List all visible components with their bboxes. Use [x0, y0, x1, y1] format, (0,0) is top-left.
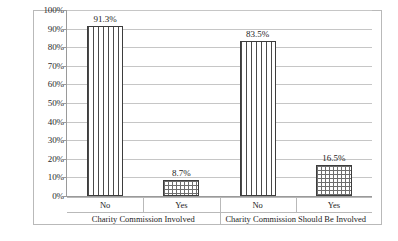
y-axis-tick-label: 40% — [2, 117, 64, 127]
y-axis-tick-label: 0% — [2, 191, 64, 201]
y-axis-tick — [62, 140, 66, 141]
y-axis-tick — [62, 122, 66, 123]
bar-chart: 0%10%20%30%40%50%60%70%80%90%100% 91.3%8… — [0, 0, 398, 241]
y-axis-tick — [62, 29, 66, 30]
y-axis-tick-label: 20% — [2, 154, 64, 164]
category-tier-items: NoYesNoYes — [67, 197, 372, 212]
category-label-yes: Yes — [143, 197, 219, 212]
group-label: Charity Commission Should Be Involved — [220, 212, 373, 225]
bar-data-label: 91.3% — [75, 14, 135, 25]
category-separator — [143, 197, 144, 212]
y-axis-tick-label: 100% — [2, 5, 64, 15]
bar-no-group1[interactable] — [87, 26, 123, 196]
y-axis-labels: 0%10%20%30%40%50%60%70%80%90%100% — [0, 10, 64, 206]
bar-data-label: 8.7% — [151, 168, 211, 179]
y-axis-tick — [62, 47, 66, 48]
category-tier-groups: Charity Commission InvolvedCharity Commi… — [67, 212, 372, 225]
y-axis-tick-label: 30% — [2, 135, 64, 145]
category-axis: NoYesNoYes Charity Commission InvolvedCh… — [67, 197, 372, 225]
category-separator — [296, 197, 297, 212]
y-axis-tick — [62, 177, 66, 178]
bar-yes-group1[interactable] — [163, 180, 199, 196]
y-axis-tick-label: 10% — [2, 172, 64, 182]
category-label-yes: Yes — [296, 197, 372, 212]
group-label: Charity Commission Involved — [67, 212, 220, 225]
category-label-no: No — [67, 197, 143, 212]
y-axis-tick-label: 90% — [2, 24, 64, 34]
category-label-no: No — [220, 197, 296, 212]
group-separator — [220, 212, 221, 225]
y-axis-tick — [62, 103, 66, 104]
bar-no-group2[interactable] — [240, 41, 276, 196]
bar-data-label: 16.5% — [304, 153, 364, 164]
bar-data-label: 83.5% — [228, 29, 288, 40]
y-axis-tick-label: 80% — [2, 42, 64, 52]
plot-area: 91.3%8.7%83.5%16.5% — [67, 10, 372, 196]
y-axis-tick — [62, 84, 66, 85]
y-axis-tick — [62, 66, 66, 67]
category-separator — [220, 197, 221, 212]
y-axis-tick-label: 70% — [2, 61, 64, 71]
y-axis-tick-label: 50% — [2, 98, 64, 108]
y-axis-tick — [62, 159, 66, 160]
bar-yes-group2[interactable] — [316, 165, 352, 196]
y-axis-tick — [62, 10, 66, 11]
y-axis-tick-label: 60% — [2, 79, 64, 89]
y-axis-tick — [62, 196, 66, 197]
